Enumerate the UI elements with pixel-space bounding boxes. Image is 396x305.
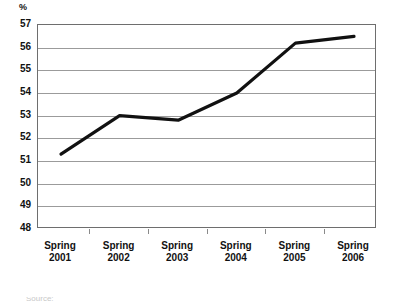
x-tick-label-year: 2006 [318,252,388,264]
footnote-strip: Source: [0,297,396,305]
x-axis-tick-mark [324,229,325,234]
x-axis-tick-label: Spring2006 [318,240,388,264]
footnote-text: Source: [26,297,54,303]
x-axis-tick-mark [148,229,149,234]
x-tick-label-season: Spring [318,240,388,252]
x-axis-tick-mark [207,229,208,234]
line-chart: % 48495051525354555657 Spring2001Spring2… [0,0,396,305]
x-axis-tick-mark [265,229,266,234]
x-axis-tick-mark [89,229,90,234]
x-axis-tick-labels: Spring2001Spring2002Spring2003Spring2004… [0,240,396,280]
